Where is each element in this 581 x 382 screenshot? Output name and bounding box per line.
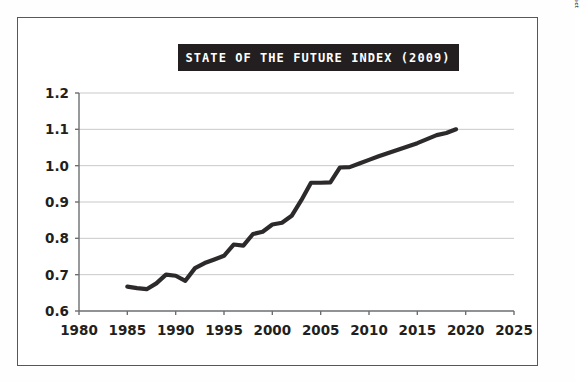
x-tick-label-1995: 1995	[205, 322, 243, 338]
x-tick-label-2005: 2005	[302, 322, 340, 338]
figure-frame: 0.60.70.80.91.01.11.2 198019851990199520…	[17, 17, 538, 366]
y-tick-label-1.1: 1.1	[45, 121, 69, 137]
x-tick-label-group: 1980198519901995200020052010201520202025	[60, 322, 533, 338]
chart-title-banner: STATE OF THE FUTURE INDEX (2009)	[178, 44, 459, 71]
series-line-0	[127, 129, 456, 289]
x-tick-label-1990: 1990	[157, 322, 195, 338]
y-tick-label-0.9: 0.9	[45, 194, 69, 210]
x-tick-label-2010: 2010	[350, 322, 388, 338]
x-tick-label-2025: 2025	[495, 322, 533, 338]
y-tick-label-0.7: 0.7	[45, 267, 69, 283]
data-series-group	[127, 129, 456, 289]
y-tick-label-1.2: 1.2	[45, 85, 69, 101]
y-tick-label-1: 1.0	[45, 158, 69, 174]
y-tick-label-0.8: 0.8	[45, 230, 69, 246]
x-tick-label-2000: 2000	[254, 322, 292, 338]
y-tick-label-0.6: 0.6	[45, 303, 69, 319]
chart-title: STATE OF THE FUTURE INDEX (2009)	[186, 50, 451, 65]
x-tick-label-1980: 1980	[60, 322, 98, 338]
x-tick-label-1985: 1985	[109, 322, 147, 338]
x-tick-label-2015: 2015	[399, 322, 437, 338]
x-tick-label-2020: 2020	[447, 322, 485, 338]
gridline-group	[79, 93, 514, 275]
y-tick-label-group: 0.60.70.80.91.01.11.2	[45, 85, 69, 319]
source-credit: Source: The Millennium Project	[574, 0, 581, 8]
